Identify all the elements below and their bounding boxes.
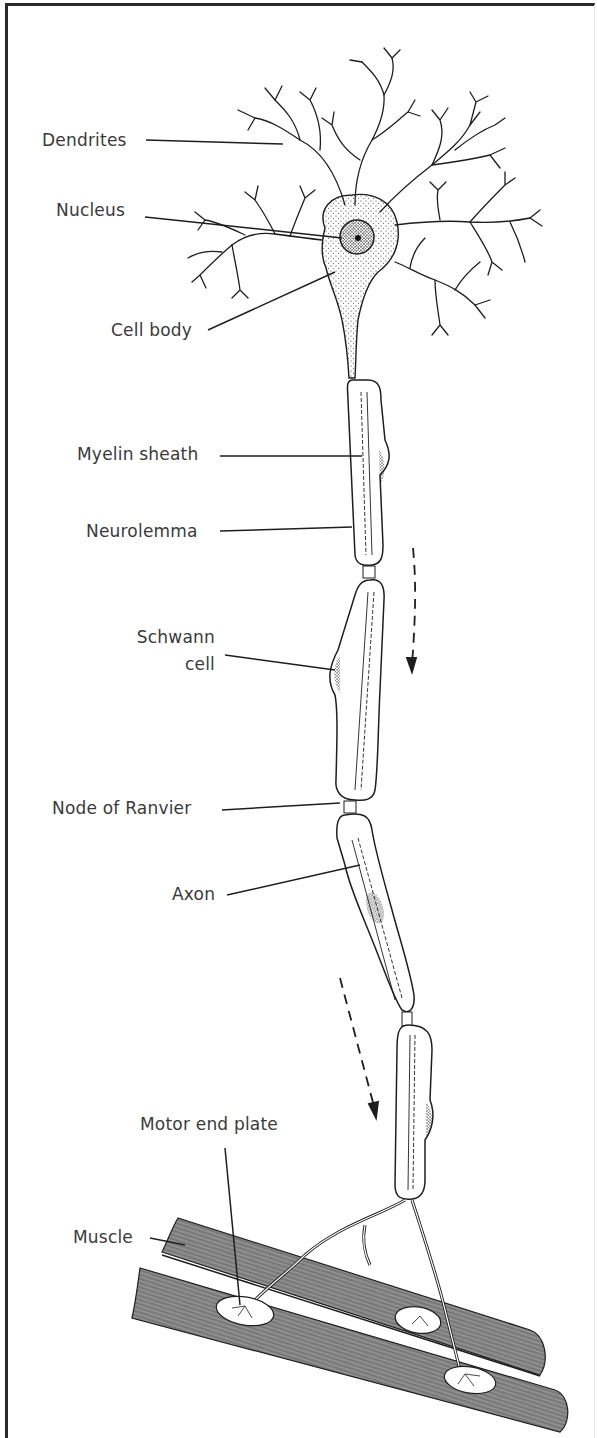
label-myelin-sheath: Myelin sheath bbox=[77, 444, 198, 464]
label-nucleus: Nucleus bbox=[56, 200, 125, 220]
label-schwann-cell-line2: cell bbox=[120, 654, 215, 674]
label-neurolemma: Neurolemma bbox=[86, 521, 198, 541]
label-dendrites: Dendrites bbox=[42, 130, 127, 150]
label-muscle: Muscle bbox=[73, 1227, 133, 1247]
label-cell-body: Cell body bbox=[111, 320, 192, 340]
muscle-fibers bbox=[132, 1218, 568, 1432]
label-motor-end-plate: Motor end plate bbox=[140, 1114, 278, 1134]
label-node-of-ranvier: Node of Ranvier bbox=[52, 798, 191, 818]
nucleus bbox=[340, 220, 374, 254]
myelin-segments bbox=[330, 380, 433, 1199]
label-axon: Axon bbox=[172, 884, 215, 904]
label-schwann-cell-line1: Schwann bbox=[120, 627, 215, 647]
